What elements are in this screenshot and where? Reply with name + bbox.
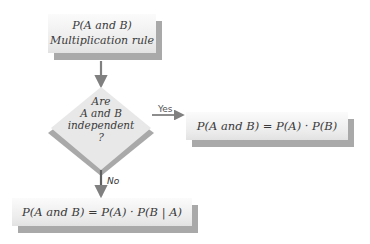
no-label: No: [107, 176, 119, 186]
yes-label: Yes: [158, 104, 173, 114]
independent-formula: P(A and B) = P(A) · P(B): [186, 112, 348, 140]
dependent-formula-node: P(A and B) = P(A) · P(B | A): [12, 198, 192, 226]
node-subtitle: Multiplication rule: [48, 33, 156, 48]
multiplication-rule-node: P(A and B) Multiplication rule: [48, 14, 156, 53]
independent-formula-node: P(A and B) = P(A) · P(B): [186, 112, 348, 140]
decision-line-1: Are: [56, 95, 146, 107]
decision-line-2: A and B: [56, 107, 146, 119]
node-title: P(A and B): [48, 18, 156, 33]
dependent-formula: P(A and B) = P(A) · P(B | A): [12, 198, 192, 226]
decision-line-4: ?: [56, 131, 146, 143]
decision-line-3: independent: [56, 119, 146, 131]
decision-text: Are A and B independent ?: [56, 95, 146, 143]
